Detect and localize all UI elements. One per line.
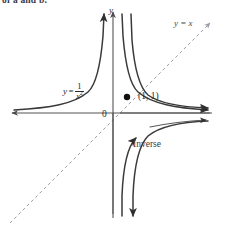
inverse-curve-label: Inverse [133, 140, 161, 150]
origin-label: 0 [102, 110, 107, 120]
function-denominator: x2 [75, 92, 84, 101]
curve-inverse-lower [122, 121, 208, 216]
figure-container: of a and b. [0, 0, 225, 225]
y-axis-label: y [109, 6, 113, 15]
point-one-one [124, 94, 130, 100]
function-fraction: 1 x2 [75, 82, 84, 101]
curve-y-equals-one-over-x-squared-left [14, 14, 104, 110]
identity-line-label: y = x [174, 19, 193, 28]
point-label: (1, 1) [138, 92, 159, 102]
function-numerator: 1 [76, 82, 82, 91]
function-label-y: y [63, 87, 67, 96]
function-equation-label: y = 1 x2 [63, 82, 84, 101]
function-label-equals: = [69, 87, 74, 96]
denominator-exponent: 2 [80, 90, 83, 96]
graph-canvas [0, 0, 225, 225]
